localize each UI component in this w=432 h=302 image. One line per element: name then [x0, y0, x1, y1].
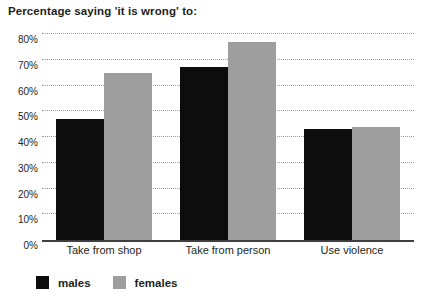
- legend-label: females: [135, 277, 178, 289]
- bar-males-1: [180, 67, 228, 240]
- x-axis-line: [42, 240, 414, 242]
- chart-legend: malesfemales: [36, 276, 177, 289]
- bars-layer: [42, 34, 414, 240]
- x-axis-tick-label: Take from shop: [66, 244, 141, 256]
- bar-females-1: [228, 42, 276, 240]
- legend-item-males: males: [36, 276, 91, 289]
- legend-swatch-icon: [113, 276, 126, 289]
- bar-males-2: [304, 129, 352, 240]
- legend-label: males: [58, 277, 91, 289]
- bar-chart: Percentage saying 'it is wrong' to: 0%10…: [0, 0, 432, 302]
- x-axis-labels: Take from shopTake from personUse violen…: [42, 244, 414, 264]
- y-axis-labels: 0%10%20%30%40%50%60%70%80%: [0, 34, 38, 240]
- bar-females-2: [352, 127, 400, 240]
- x-axis-tick-label: Take from person: [186, 244, 271, 256]
- x-axis-tick-label: Use violence: [321, 244, 384, 256]
- chart-title: Percentage saying 'it is wrong' to:: [8, 5, 197, 17]
- bar-males-0: [56, 119, 104, 240]
- bar-females-0: [104, 73, 152, 240]
- legend-item-females: females: [113, 276, 178, 289]
- legend-swatch-icon: [36, 276, 49, 289]
